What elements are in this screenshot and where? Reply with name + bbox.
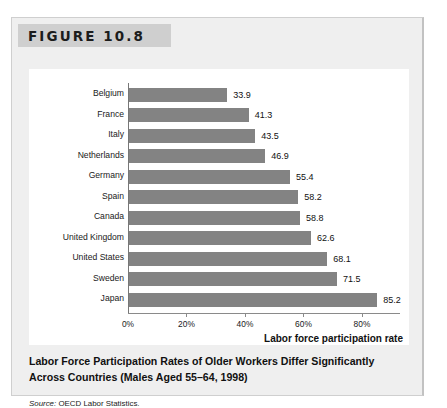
bar xyxy=(128,190,298,204)
bar xyxy=(128,170,290,184)
x-axis-tick xyxy=(362,313,363,317)
bar-track: 33.9 xyxy=(128,88,409,102)
bar-track: 41.3 xyxy=(128,108,409,122)
bar-value-label: 58.2 xyxy=(298,192,322,202)
bar-row: Japan85.2 xyxy=(29,290,409,311)
x-axis-tick-label: 80% xyxy=(354,319,371,329)
bar-track: 58.8 xyxy=(128,211,409,225)
bar xyxy=(128,211,300,225)
bar-row: Canada58.8 xyxy=(29,208,409,229)
x-axis-tick-label: 60% xyxy=(295,319,312,329)
bar-category-label: France xyxy=(0,109,124,119)
bar-category-label: Belgium xyxy=(0,88,124,98)
bar-track: 43.5 xyxy=(128,129,409,143)
y-axis-line xyxy=(128,83,129,313)
bar-row: Belgium33.9 xyxy=(29,85,409,106)
bar-value-label: 58.8 xyxy=(300,213,324,223)
x-axis-tick-label: 40% xyxy=(237,319,254,329)
bar-track: 55.4 xyxy=(128,170,409,184)
bar xyxy=(128,293,377,307)
bar-row: Sweden71.5 xyxy=(29,270,409,291)
bar-category-label: United States xyxy=(0,252,124,262)
bar-category-label: Italy xyxy=(0,129,124,139)
bar-category-label: United Kingdom xyxy=(0,232,124,242)
bar-row: Spain58.2 xyxy=(29,188,409,209)
bar-row: Italy43.5 xyxy=(29,126,409,147)
bar-value-label: 71.5 xyxy=(337,274,361,284)
figure-number-label: FIGURE 10.8 xyxy=(28,28,145,44)
bar-track: 85.2 xyxy=(128,293,409,307)
bar-row: France41.3 xyxy=(29,106,409,127)
bar xyxy=(128,149,265,163)
x-axis-tick xyxy=(245,313,246,317)
bar-category-label: Germany xyxy=(0,170,124,180)
bar-category-label: Sweden xyxy=(0,273,124,283)
bar-track: 68.1 xyxy=(128,252,409,266)
bar-track: 46.9 xyxy=(128,149,409,163)
bar xyxy=(128,108,249,122)
bar-row: United States68.1 xyxy=(29,249,409,270)
bar-category-label: Canada xyxy=(0,211,124,221)
bar-value-label: 85.2 xyxy=(377,295,401,305)
bar xyxy=(128,231,311,245)
bar xyxy=(128,129,255,143)
bar-track: 71.5 xyxy=(128,272,409,286)
x-axis-tick-label: 0% xyxy=(122,319,134,329)
bar-value-label: 68.1 xyxy=(327,254,351,264)
bar-category-label: Japan xyxy=(0,293,124,303)
bar-row: United Kingdom62.6 xyxy=(29,229,409,250)
bar-row: Netherlands46.9 xyxy=(29,147,409,168)
x-axis-title: Labor force participation rate xyxy=(264,333,403,344)
x-axis-tick-label: 20% xyxy=(178,319,195,329)
x-axis-line xyxy=(128,313,400,314)
bar-chart: Belgium33.9France41.3Italy43.5Netherland… xyxy=(29,69,409,345)
bar-row: Germany55.4 xyxy=(29,167,409,188)
x-axis-tick xyxy=(186,313,187,317)
figure-caption: Labor Force Participation Rates of Older… xyxy=(29,354,411,385)
source-prefix: Source: xyxy=(29,399,56,408)
bar-value-label: 43.5 xyxy=(255,131,279,141)
caption-line-1: Labor Force Participation Rates of Older… xyxy=(29,354,411,370)
bar xyxy=(128,252,327,266)
bar-category-label: Netherlands xyxy=(0,150,124,160)
figure-source: Source: OECD Labor Statistics. xyxy=(29,399,140,408)
caption-line-2: Across Countries (Males Aged 55–64, 1998… xyxy=(29,370,411,386)
x-axis-tick xyxy=(303,313,304,317)
bar xyxy=(128,272,337,286)
figure-panel: FIGURE 10.8 Belgium33.9France41.3Italy43… xyxy=(11,17,424,396)
bar-track: 62.6 xyxy=(128,231,409,245)
bar-category-label: Spain xyxy=(0,191,124,201)
bar-value-label: 62.6 xyxy=(311,233,335,243)
bar-value-label: 46.9 xyxy=(265,151,289,161)
chart-card: Belgium33.9France41.3Italy43.5Netherland… xyxy=(29,69,409,345)
source-text: OECD Labor Statistics. xyxy=(58,399,139,408)
bar-value-label: 33.9 xyxy=(227,90,251,100)
bar-value-label: 55.4 xyxy=(290,172,314,182)
bar-track: 58.2 xyxy=(128,190,409,204)
chart-rows: Belgium33.9France41.3Italy43.5Netherland… xyxy=(29,85,409,311)
bar-value-label: 41.3 xyxy=(249,110,273,120)
bar xyxy=(128,88,227,102)
